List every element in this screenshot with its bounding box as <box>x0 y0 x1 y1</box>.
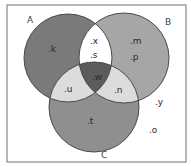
element-o: .o <box>149 125 158 135</box>
element-k: .k <box>48 44 57 54</box>
element-t: .t <box>87 116 94 126</box>
element-n: .n <box>114 85 123 95</box>
element-u: .u <box>64 84 73 94</box>
element-p: .p <box>130 52 139 62</box>
element-s: .s <box>90 50 98 60</box>
set-label-b: B <box>165 17 171 27</box>
element-y: .y <box>155 97 164 107</box>
element-m: .m <box>130 36 142 46</box>
set-label-c: C <box>101 150 107 160</box>
set-label-a: A <box>27 15 34 25</box>
venn-diagram: A B C .k .x .s .m .p .w .u .n .t .y .o <box>0 0 191 167</box>
element-x: .x <box>90 36 99 46</box>
element-w: .w <box>92 72 102 82</box>
